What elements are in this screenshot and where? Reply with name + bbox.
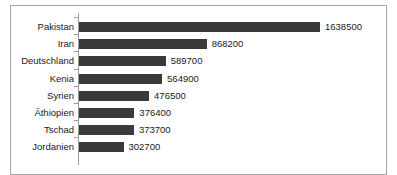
- axis-tick-mark: [74, 120, 78, 121]
- axis-tick-mark: [74, 34, 78, 35]
- bar-category-label: Äthiopien: [11, 107, 74, 119]
- bar-value-label: 1638500: [325, 21, 362, 33]
- bar-category-label: Jordanien: [11, 141, 74, 153]
- axis-tick-mark: [74, 137, 78, 138]
- bar-value-label: 373700: [139, 124, 171, 136]
- bar-track: 589700: [79, 53, 386, 70]
- bar-row: Iran868200: [11, 36, 386, 53]
- bar[interactable]: [79, 125, 134, 135]
- bar-track: 476500: [79, 88, 386, 105]
- bar[interactable]: [79, 142, 124, 152]
- bar-category-label: Syrien: [11, 90, 74, 102]
- bar[interactable]: [79, 39, 207, 49]
- bar-category-label: Iran: [11, 38, 74, 50]
- axis-tick-mark: [74, 51, 78, 52]
- axis-tick-mark: [74, 103, 78, 104]
- bar[interactable]: [79, 74, 162, 84]
- bar-category-label: Deutschland: [11, 55, 74, 67]
- bar-row: Pakistan1638500: [11, 19, 386, 36]
- bar-track: 564900: [79, 71, 386, 88]
- bar-value-label: 476500: [154, 90, 186, 102]
- bar-value-label: 376400: [139, 107, 171, 119]
- bar-row: Deutschland589700: [11, 53, 386, 70]
- bar-value-label: 868200: [212, 38, 244, 50]
- bar-track: 376400: [79, 105, 386, 122]
- bar-track: 302700: [79, 139, 386, 156]
- bar[interactable]: [79, 22, 320, 32]
- bar-track: 868200: [79, 36, 386, 53]
- chart-frame: Pakistan1638500Iran868200Deutschland5897…: [10, 5, 387, 156]
- bar-row: Äthiopien376400: [11, 105, 386, 122]
- bar-track: 1638500: [79, 19, 386, 36]
- bar-value-label: 589700: [171, 55, 203, 67]
- bar-category-label: Pakistan: [11, 21, 74, 33]
- bar-track: 373700: [79, 122, 386, 139]
- bar[interactable]: [79, 91, 149, 101]
- bar-row: Tschad373700: [11, 122, 386, 139]
- bar-category-label: Tschad: [11, 124, 74, 136]
- bar-value-label: 302700: [129, 141, 161, 153]
- axis-tick-mark: [74, 17, 78, 18]
- bar[interactable]: [79, 108, 134, 118]
- bar-row: Jordanien302700: [11, 139, 386, 156]
- bar-value-label: 564900: [167, 73, 199, 85]
- bar-row: Syrien476500: [11, 88, 386, 105]
- bar-row: Kenia564900: [11, 71, 386, 88]
- axis-tick-mark: [74, 86, 78, 87]
- bar-chart-plot-area: Pakistan1638500Iran868200Deutschland5897…: [11, 6, 386, 156]
- axis-tick-mark: [74, 69, 78, 70]
- bar[interactable]: [79, 56, 166, 66]
- bar-category-label: Kenia: [11, 73, 74, 85]
